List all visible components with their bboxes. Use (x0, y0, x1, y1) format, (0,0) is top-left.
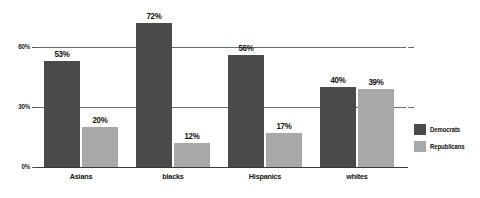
bar-republicans-asians[interactable]: 20% (82, 127, 118, 167)
bar-value-label: 56% (238, 43, 253, 53)
y-axis-tick-30: 30% (4, 103, 30, 110)
legend-swatch-icon (414, 141, 426, 152)
right-tickmark-30 (408, 107, 414, 108)
bar-value-label: 17% (276, 121, 291, 131)
x-axis-label-whites: whites (324, 172, 391, 181)
legend-swatch-icon (414, 124, 426, 135)
x-axis-label-hispanics: Hispanics (232, 172, 299, 181)
bar-democrats-whites[interactable]: 40% (320, 87, 356, 167)
legend-label: Republicans (430, 143, 465, 150)
x-axis-label-asians: Asians (48, 172, 115, 181)
bar-value-label: 53% (54, 49, 69, 59)
y-axis-tickmark-60 (32, 47, 37, 48)
bar-republicans-hispanics[interactable]: 17% (266, 133, 302, 167)
right-tickmark-60 (408, 47, 414, 48)
bar-group-bars: 56% 17% (228, 17, 302, 167)
bar-group-bars: 40% 39% (320, 17, 394, 167)
bar-group-bars: 72% 12% (136, 17, 210, 167)
legend-item-republicans[interactable]: Republicans (414, 141, 478, 152)
bar-democrats-asians[interactable]: 53% (44, 61, 80, 167)
bar-democrats-blacks[interactable]: 72% (136, 23, 172, 167)
legend-label: Democrats (430, 126, 460, 133)
bar-group-bars: 53% 20% (44, 17, 118, 167)
legend: Democrats Republicans (414, 124, 478, 158)
bar-value-label: 72% (146, 11, 161, 21)
y-axis-tickmark-30 (32, 107, 37, 108)
bar-republicans-whites[interactable]: 39% (358, 89, 394, 167)
x-axis-label-blacks: blacks (140, 172, 207, 181)
bar-value-label: 40% (330, 75, 345, 85)
x-axis-baseline (36, 167, 408, 168)
bar-democrats-hispanics[interactable]: 56% (228, 55, 264, 167)
legend-item-democrats[interactable]: Democrats (414, 124, 478, 135)
y-axis-tick-0: 0% (4, 163, 30, 170)
bar-republicans-blacks[interactable]: 12% (174, 143, 210, 167)
bar-value-label: 12% (184, 131, 199, 141)
bar-value-label: 20% (92, 115, 107, 125)
y-axis-tick-60: 60% (4, 43, 30, 50)
bar-chart: 60% 30% 0% 53% 20% Asians 72% 12% black (0, 0, 480, 198)
bar-value-label: 39% (368, 77, 383, 87)
